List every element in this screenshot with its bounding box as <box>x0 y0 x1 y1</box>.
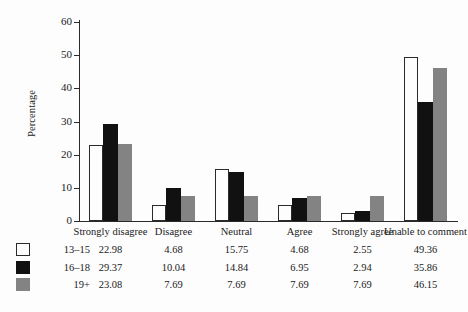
bar <box>244 196 259 222</box>
y-axis-tick-label: 60 <box>38 16 72 27</box>
category-axis-labels: Strongly disagreeDisagreeNeutralAgreeStr… <box>0 225 468 241</box>
bar <box>433 68 448 221</box>
legend-swatch <box>16 261 30 274</box>
data-table-cell: 49.36 <box>382 242 468 257</box>
y-axis-tick-mark <box>74 55 79 56</box>
y-axis-tick-label: 10 <box>38 182 72 193</box>
y-axis-tick-mark <box>74 88 79 89</box>
bar-chart-figure: Percentage 0102030405060 Strongly disagr… <box>0 0 468 312</box>
bar <box>292 198 307 221</box>
y-axis-tick-label: 40 <box>38 82 72 93</box>
y-axis-tick-mark <box>74 221 79 222</box>
bar <box>418 102 433 221</box>
bar <box>341 213 356 221</box>
bar <box>307 196 322 222</box>
y-axis-tick-mark <box>74 155 79 156</box>
legend-and-data-table: 13–1522.984.6815.754.682.5549.3616–1829.… <box>0 242 468 304</box>
x-axis-line <box>79 221 458 222</box>
y-axis-tick-label: 50 <box>38 49 72 60</box>
bar <box>278 205 293 221</box>
bar <box>229 172 244 221</box>
bar <box>215 169 230 221</box>
data-table-row: 19+23.087.697.697.697.6946.15 <box>0 277 468 294</box>
data-table-row: 16–1829.3710.0414.846.952.9435.86 <box>0 260 468 277</box>
y-axis-tick-mark <box>74 122 79 123</box>
bar <box>89 145 104 221</box>
y-axis-tick-label: 20 <box>38 149 72 160</box>
data-table-cell: 46.15 <box>382 277 468 292</box>
bar <box>355 211 370 221</box>
y-axis-tick-mark <box>74 188 79 189</box>
legend-swatch <box>16 243 30 256</box>
bar <box>118 144 133 221</box>
data-table-row: 13–1522.984.6815.754.682.5549.36 <box>0 242 468 259</box>
bar <box>370 196 385 222</box>
bar <box>152 205 167 221</box>
bar <box>404 57 419 221</box>
plot-area <box>79 22 457 221</box>
legend-swatch <box>16 278 30 291</box>
y-axis-tick-mark <box>74 22 79 23</box>
bar <box>103 124 118 221</box>
y-axis-tick-label: 30 <box>38 116 72 127</box>
bar <box>166 188 181 221</box>
bar <box>181 196 196 222</box>
data-table-cell: 35.86 <box>382 260 468 275</box>
category-label: Unable to comment <box>382 225 468 239</box>
